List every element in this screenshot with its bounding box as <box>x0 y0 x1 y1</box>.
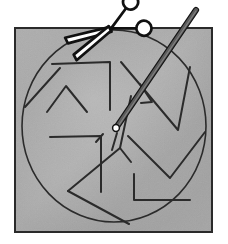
craft-diagram-canvas <box>0 0 228 244</box>
figure-root: Pinwheel cut-pattern craft diagram Squar… <box>0 0 228 244</box>
centre-pivot[interactable] <box>113 125 120 132</box>
